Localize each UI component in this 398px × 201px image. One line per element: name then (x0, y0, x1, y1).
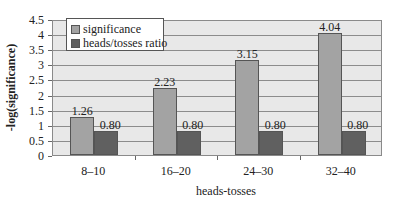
y-tick-mark (48, 156, 52, 157)
legend-label: heads/tosses ratio (83, 36, 167, 51)
y-tick-label: 4 (0, 29, 44, 41)
y-tick-label: 3 (0, 59, 44, 71)
x-tick-label: 32–40 (311, 164, 371, 179)
data-label: 3.15 (227, 48, 267, 60)
data-label: 0.80 (255, 119, 295, 131)
data-label: 1.26 (62, 105, 102, 117)
bar-ratio (259, 131, 283, 155)
data-label: 0.80 (173, 119, 213, 131)
data-label: 4.04 (310, 21, 350, 33)
legend-label: significance (83, 22, 141, 37)
bar-significance (318, 33, 342, 155)
x-axis-title: heads-tosses (186, 184, 266, 199)
legend-swatch-ratio (71, 39, 80, 48)
y-tick-label: 2.5 (0, 74, 44, 86)
y-tick-label: 4.5 (0, 14, 44, 26)
bar-ratio (342, 131, 366, 155)
y-tick-label: 0 (0, 150, 44, 162)
data-label: 0.80 (338, 119, 378, 131)
x-tick-label: 8–10 (63, 164, 123, 179)
data-label: 0.80 (90, 119, 130, 131)
y-tick-label: 0.5 (0, 135, 44, 147)
bar-significance (235, 60, 259, 155)
x-tick-mark (135, 156, 136, 160)
x-tick-label: 16–20 (146, 164, 206, 179)
legend-item-ratio: heads/tosses ratio (71, 36, 167, 51)
legend-swatch-significance (71, 25, 80, 34)
y-tick-label: 1 (0, 120, 44, 132)
bar-ratio (177, 131, 201, 155)
bar-ratio (94, 131, 118, 155)
y-tick-label: 3.5 (0, 44, 44, 56)
data-label: 2.23 (145, 76, 185, 88)
legend: significance heads/tosses ratio (66, 18, 164, 51)
y-tick-label: 2 (0, 90, 44, 102)
x-tick-mark (217, 156, 218, 160)
y-tick-label: 1.5 (0, 105, 44, 117)
x-tick-mark (300, 156, 301, 160)
legend-item-significance: significance (71, 22, 141, 37)
x-tick-label: 24–30 (228, 164, 288, 179)
